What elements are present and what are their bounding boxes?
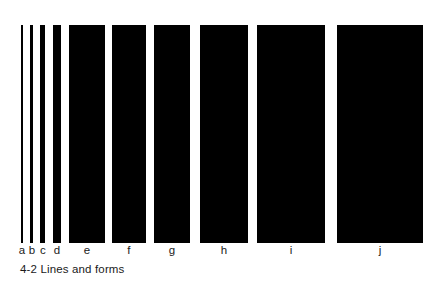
bar-d xyxy=(53,25,61,243)
bar-label-e: e xyxy=(84,243,91,258)
bar-b xyxy=(30,25,33,243)
bar-f xyxy=(112,25,146,243)
bar-c xyxy=(40,25,45,243)
figure-caption: 4-2 Lines and forms xyxy=(20,262,125,276)
bar-labels-row: abcdefghij xyxy=(0,243,443,260)
bar-chart-plot-area xyxy=(0,0,443,248)
bar-label-b: b xyxy=(29,243,36,258)
figure-lines-and-forms: abcdefghij 4-2 Lines and forms xyxy=(0,0,443,284)
bar-label-f: f xyxy=(127,243,130,258)
bar-label-g: g xyxy=(169,243,176,258)
bar-label-a: a xyxy=(19,243,26,258)
bar-label-c: c xyxy=(40,243,46,258)
bar-label-i: i xyxy=(290,243,293,258)
bar-g xyxy=(154,25,190,243)
bar-label-j: j xyxy=(379,243,382,258)
bar-label-h: h xyxy=(221,243,228,258)
bar-label-d: d xyxy=(54,243,61,258)
bar-a xyxy=(21,25,23,243)
bar-j xyxy=(337,25,423,243)
bar-h xyxy=(200,25,248,243)
bar-i xyxy=(257,25,325,243)
bar-e xyxy=(69,25,105,243)
